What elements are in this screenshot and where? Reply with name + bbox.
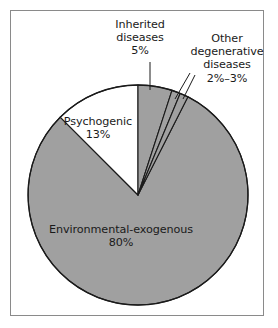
slice-label-inherited-diseases: Inherited diseases 5% bbox=[98, 18, 182, 58]
slice-label-other-degenerative-diseases: Other degenerative diseases 2%–3% bbox=[181, 32, 273, 85]
slice-label-psychogenic-line1: Psychogenic bbox=[52, 115, 144, 128]
slice-label-environmental-line1: Environmental-exogenous bbox=[26, 223, 216, 236]
slice-label-psychogenic: Psychogenic 13% bbox=[52, 115, 144, 141]
slice-label-inherited-line2: diseases bbox=[98, 31, 182, 44]
slice-label-other-line2: degenerative bbox=[181, 45, 273, 58]
slice-label-other-line1: Other bbox=[181, 32, 273, 45]
slice-label-environmental-exogenous: Environmental-exogenous 80% bbox=[26, 223, 216, 249]
slice-label-other-line3: diseases bbox=[181, 58, 273, 71]
slice-label-inherited-line1: Inherited bbox=[98, 18, 182, 31]
slice-value-other-degenerative: 2%–3% bbox=[181, 72, 273, 85]
slice-value-psychogenic: 13% bbox=[52, 128, 144, 141]
slice-value-inherited: 5% bbox=[98, 44, 182, 57]
pie-chart-figure: Inherited diseases 5% Other degenerative… bbox=[0, 0, 278, 328]
slice-value-environmental: 80% bbox=[26, 236, 216, 249]
